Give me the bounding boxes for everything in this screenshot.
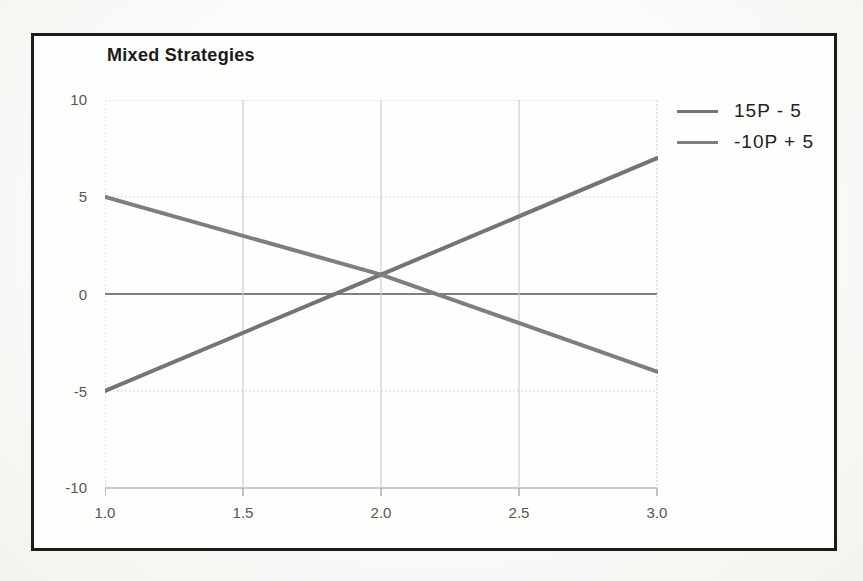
chart-frame: Mixed Strategies 10 5 0 -5 -10 1.0 1.5 2… bbox=[31, 33, 837, 551]
y-tick-label: 5 bbox=[34, 187, 87, 207]
x-tick-label: 3.0 bbox=[622, 503, 692, 523]
y-tick-label: -10 bbox=[34, 478, 87, 498]
legend-line-swatch bbox=[677, 110, 718, 113]
plot-area bbox=[105, 100, 658, 500]
x-tick-label: 2.5 bbox=[484, 503, 554, 523]
x-tick-label: 1.5 bbox=[208, 503, 278, 523]
legend-item: -10P + 5 bbox=[677, 132, 814, 152]
legend-label: -10P + 5 bbox=[734, 131, 814, 153]
legend-line-swatch bbox=[677, 141, 718, 144]
x-tick-label: 1.0 bbox=[70, 503, 140, 523]
y-tick-label: 0 bbox=[34, 285, 87, 305]
legend-label: 15P - 5 bbox=[734, 100, 802, 122]
photographed-chart-page: Mixed Strategies 10 5 0 -5 -10 1.0 1.5 2… bbox=[0, 0, 863, 581]
y-tick-label: -5 bbox=[34, 382, 87, 402]
y-tick-label: 10 bbox=[34, 90, 87, 110]
legend-item: 15P - 5 bbox=[677, 101, 802, 121]
x-tick-label: 2.0 bbox=[346, 503, 416, 523]
chart-title: Mixed Strategies bbox=[107, 45, 255, 66]
